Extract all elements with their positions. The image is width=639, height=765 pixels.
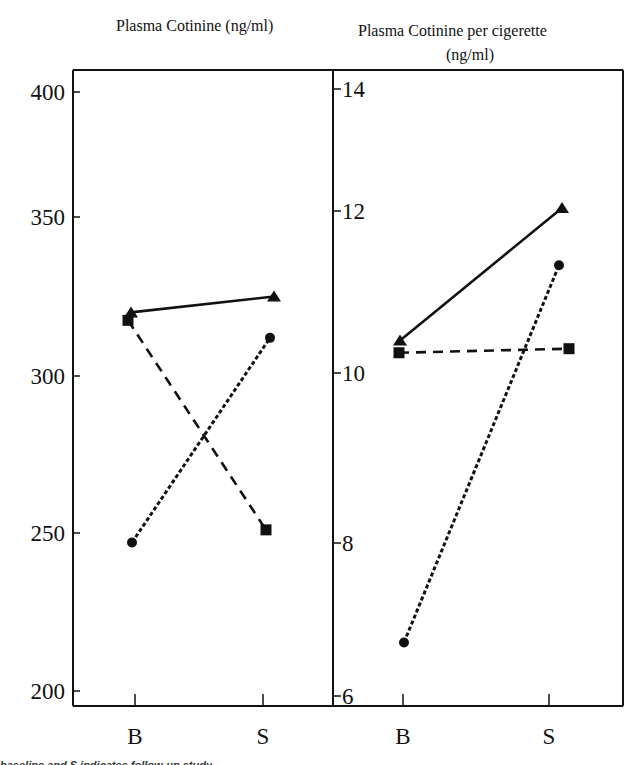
triangle-marker — [555, 202, 569, 213]
circle-marker — [127, 537, 137, 547]
y-tick-label: 10 — [342, 361, 365, 386]
y-tick-label: 300 — [31, 364, 66, 389]
series-line-square-dashed — [399, 349, 569, 353]
y-tick-label: 250 — [31, 521, 66, 546]
square-marker — [261, 524, 272, 535]
series-line-circle-dotted — [404, 265, 559, 642]
chart-canvas: 200250300350400BS68101214BS — [0, 0, 639, 765]
y-tick-label: 12 — [342, 199, 365, 224]
y-tick-label: 200 — [31, 679, 66, 704]
square-marker — [564, 343, 575, 354]
circle-marker — [265, 333, 275, 343]
square-marker — [123, 315, 134, 326]
y-tick-label: 8 — [342, 531, 354, 556]
x-tick-label-s: S — [257, 724, 270, 749]
y-tick-label: 350 — [31, 205, 66, 230]
series-line-circle-dotted — [132, 338, 270, 543]
y-tick-label: 6 — [342, 684, 354, 709]
y-tick-label: 400 — [31, 80, 66, 105]
circle-marker — [554, 260, 564, 270]
y-tick-label: 14 — [342, 77, 366, 102]
x-tick-label-b: B — [395, 724, 410, 749]
figure-caption: baseline and S indicates follow-up study — [0, 757, 212, 765]
series-line-square-dashed — [128, 320, 266, 530]
x-tick-label-b: B — [127, 724, 142, 749]
circle-marker — [399, 637, 409, 647]
square-marker — [394, 347, 405, 358]
x-tick-label-s: S — [543, 724, 556, 749]
series-line-triangle-solid — [131, 297, 274, 313]
